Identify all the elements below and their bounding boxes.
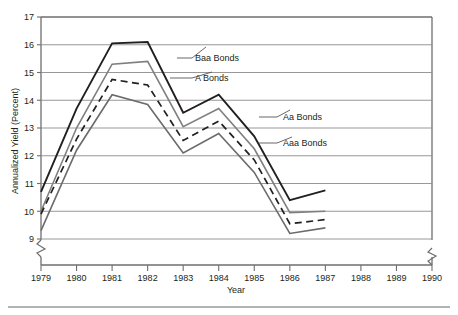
bond-yield-chart-figure: 91011121314151617 1979198019811982198319… xyxy=(0,0,458,315)
x-tick-label-1988: 1988 xyxy=(351,273,371,283)
x-tick-label-1987: 1987 xyxy=(315,273,335,283)
y-axis-title: Annualized Yield (Percent) xyxy=(10,88,20,194)
y-tick-label-13: 13 xyxy=(24,123,34,133)
x-tick-label-1979: 1979 xyxy=(31,273,51,283)
x-tick-label-1981: 1981 xyxy=(102,273,122,283)
series-label-aa-bonds: Aa Bonds xyxy=(283,112,323,122)
y-tick-label-11: 11 xyxy=(25,179,34,189)
x-tick-label-1990: 1990 xyxy=(422,273,442,283)
series-label-baa-bonds: Baa Bonds xyxy=(195,53,240,63)
y-tick-label-15: 15 xyxy=(24,68,34,78)
x-tick-label-1984: 1984 xyxy=(209,273,229,283)
x-tick-label-1986: 1986 xyxy=(280,273,300,283)
series-label-a-bonds: A Bonds xyxy=(195,73,229,83)
y-tick-label-16: 16 xyxy=(24,40,34,50)
y-tick-label-14: 14 xyxy=(24,96,34,106)
x-tick-label-1989: 1989 xyxy=(386,273,406,283)
y-tick-label-17: 17 xyxy=(24,12,34,22)
x-axis-title: Year xyxy=(227,285,245,295)
x-tick-label-1983: 1983 xyxy=(173,273,193,283)
series-label-aaa-bonds: Aaa Bonds xyxy=(283,138,328,148)
x-tick-label-1980: 1980 xyxy=(67,273,87,283)
y-tick-label-10: 10 xyxy=(24,207,34,217)
y-tick-label-9: 9 xyxy=(29,234,34,244)
chart-svg: 91011121314151617 1979198019811982198319… xyxy=(0,0,458,315)
x-tick-label-1982: 1982 xyxy=(138,273,158,283)
y-tick-label-12: 12 xyxy=(24,151,34,161)
x-tick-label-1985: 1985 xyxy=(244,273,264,283)
